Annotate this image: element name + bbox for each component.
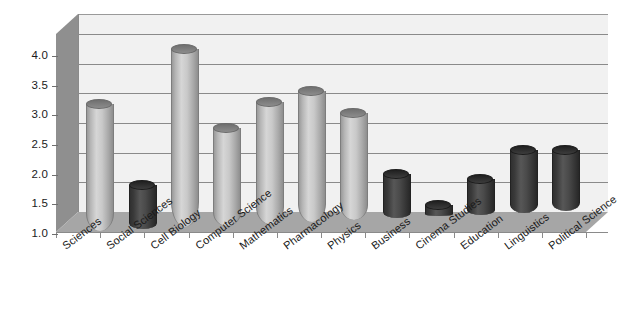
plot-area: [56, 14, 608, 232]
y-axis: 1.01.52.02.53.03.54.0: [12, 0, 48, 335]
x-axis-tick-mark: [189, 232, 190, 238]
bar-physics: [340, 113, 366, 220]
y-axis-tick-mark: [52, 86, 58, 87]
y-axis-tick-label: 1.5: [14, 199, 48, 211]
x-axis-tick-mark: [277, 232, 278, 238]
bar-body: [171, 49, 199, 227]
bar-body: [552, 150, 580, 211]
x-axis-tick-mark: [100, 232, 101, 238]
x-axis-tick-mark: [586, 232, 587, 238]
bar-top-ellipse: [256, 97, 282, 107]
bar-sciences: [86, 104, 112, 232]
y-axis-tick-mark: [52, 175, 58, 176]
y-axis-tick-mark: [52, 145, 58, 146]
x-axis-tick-mark: [56, 232, 57, 238]
bar-cell-biology: [171, 49, 197, 227]
y-axis-tick-label: 3.0: [14, 110, 48, 122]
bar-linguistics: [510, 150, 536, 212]
x-axis-tick-mark: [454, 232, 455, 238]
x-axis-tick-mark: [365, 232, 366, 238]
y-axis-tick-mark: [52, 234, 58, 235]
bar-body: [298, 91, 326, 222]
bar-top-ellipse: [129, 180, 155, 190]
bar-top-ellipse: [213, 123, 239, 133]
bar-top-ellipse: [86, 99, 112, 109]
y-axis-tick-label: 2.5: [14, 139, 48, 151]
y-axis-tick-label: 3.5: [14, 80, 48, 92]
x-axis-tick-mark: [409, 232, 410, 238]
bar-body: [340, 113, 368, 220]
bar-body: [86, 104, 114, 232]
bars-layer: [56, 14, 608, 232]
x-axis-tick-mark: [233, 232, 234, 238]
x-axis-tick-mark: [144, 232, 145, 238]
x-axis-tick-mark: [321, 232, 322, 238]
bar-top-ellipse: [467, 174, 493, 184]
bar-body: [383, 174, 411, 219]
bar-body: [510, 150, 538, 212]
y-axis-tick-label: 1.0: [14, 228, 48, 240]
bar-pharmacology: [298, 91, 324, 222]
x-axis-tick-mark: [542, 232, 543, 238]
y-axis-tick-mark: [52, 204, 58, 205]
y-axis-tick-label: 2.0: [14, 169, 48, 181]
bar-top-ellipse: [383, 169, 409, 179]
y-axis-tick-label: 4.0: [14, 50, 48, 62]
bar-cinema-studies: [425, 205, 451, 217]
bar-top-ellipse: [425, 200, 451, 210]
bar-chart: 1.01.52.02.53.03.54.0 SciencesSocial Sci…: [0, 0, 618, 335]
y-axis-tick-mark: [52, 115, 58, 116]
bar-business: [383, 174, 409, 219]
x-axis-tick-mark: [498, 232, 499, 238]
y-axis-tick-mark: [52, 56, 58, 57]
bar-political-science: [552, 150, 578, 211]
